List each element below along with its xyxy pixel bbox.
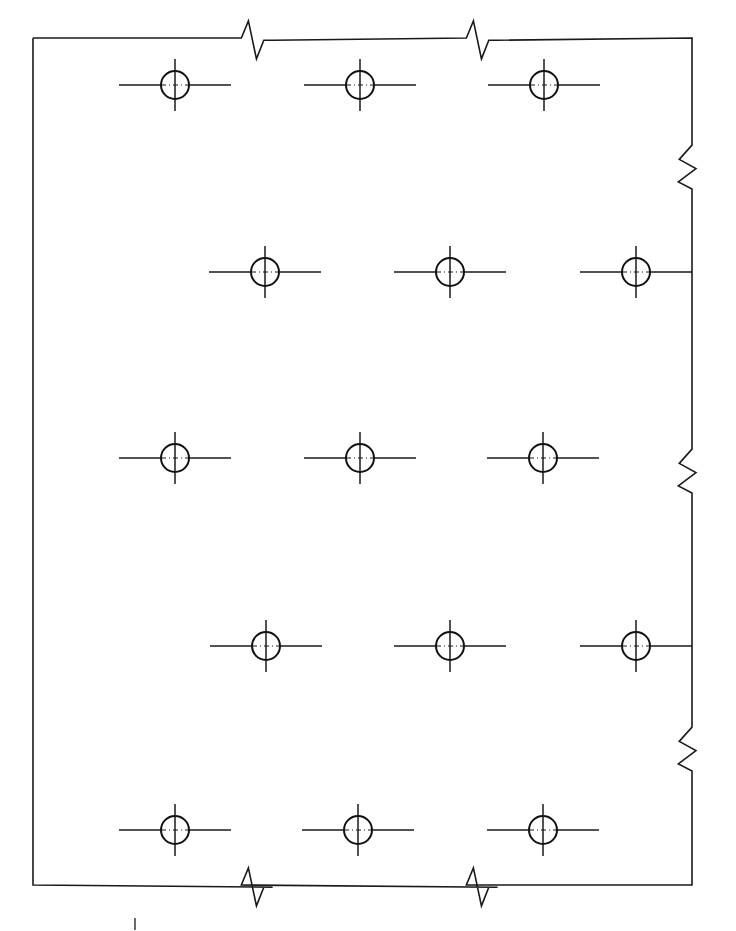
- hole-r4-c1: [210, 620, 322, 672]
- hole-r1-c2: [304, 59, 416, 111]
- hole-r1-c1: [119, 59, 231, 111]
- hole-r5-c3: [487, 804, 599, 856]
- hole-r3-c1: [119, 432, 231, 484]
- hole-row-2: [209, 246, 692, 298]
- hole-r2-c1: [209, 246, 321, 298]
- drawing-viewport: [0, 0, 736, 931]
- hole-r5-c1: [119, 804, 231, 856]
- hole-row-3: [119, 432, 599, 484]
- technical-drawing-canvas: [0, 0, 736, 931]
- hole-r4-c3: [580, 620, 692, 672]
- hole-r2-c2: [394, 246, 506, 298]
- hole-row-5: [119, 804, 599, 856]
- hole-row-4: [210, 620, 692, 672]
- hole-r3-c3: [487, 432, 599, 484]
- hole-r1-c3: [488, 59, 600, 111]
- hole-r5-c2: [302, 804, 414, 856]
- hole-pattern-group: [119, 59, 692, 856]
- hole-r2-c3: [580, 246, 692, 298]
- hole-r4-c2: [394, 620, 506, 672]
- hole-row-1: [119, 59, 600, 111]
- hole-r3-c2: [304, 432, 416, 484]
